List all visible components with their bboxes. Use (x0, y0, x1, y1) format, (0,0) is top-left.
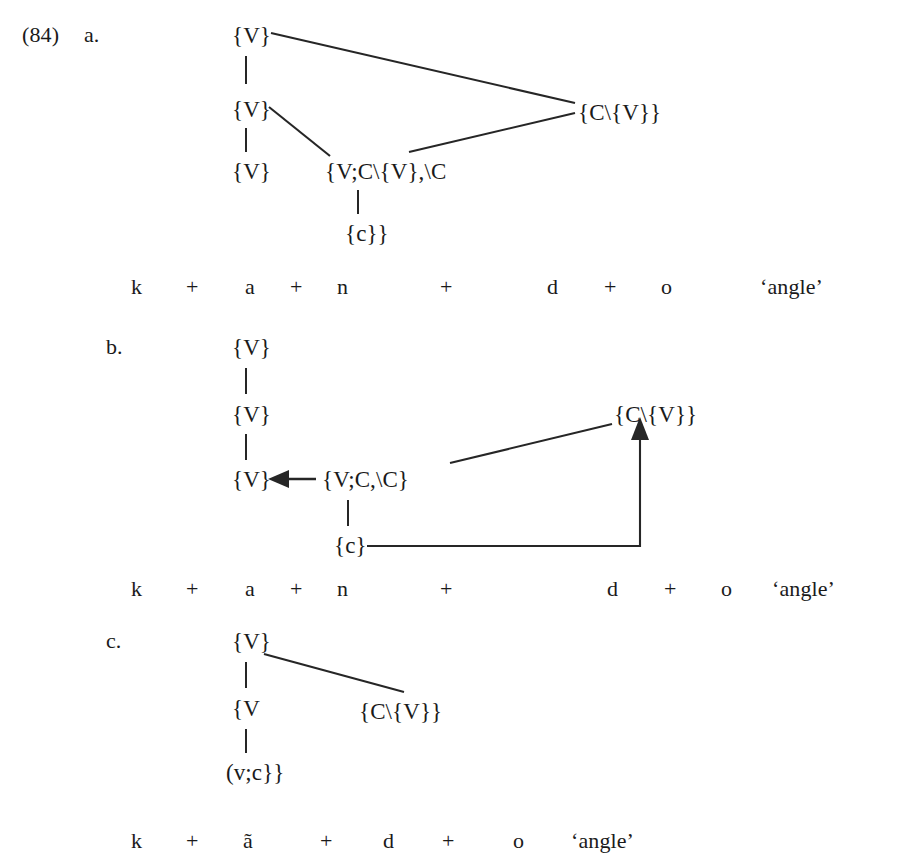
figure-84: (84) a. {V} {V} {V} {V;C\{V},\C {c}} {C\… (0, 0, 898, 868)
segment-a-4: n (337, 276, 348, 298)
segment-b-7: + (664, 578, 677, 600)
segment-b-6: d (607, 578, 618, 600)
subfigure-label-b: b. (106, 336, 123, 358)
segment-c-6: o (513, 830, 524, 852)
example-number: (84) (22, 24, 59, 46)
segment-a-5: + (440, 276, 453, 298)
node-a-cv: {C\{V}} (578, 101, 661, 124)
node-b-leaf-v: {V} (232, 468, 271, 491)
segment-c-2: ã (243, 830, 253, 852)
gloss-a: ‘angle’ (760, 276, 823, 298)
node-a-root-v: {V} (232, 24, 271, 47)
vbar-b-root-mid (245, 368, 247, 394)
segment-a-0: k (131, 276, 142, 298)
vbar-a-mid-leaf (245, 128, 247, 152)
segment-a-7: + (604, 276, 617, 298)
node-c-mid-v: {V (232, 697, 260, 720)
subfigure-label-c: c. (106, 630, 121, 652)
edge-a-mid-to-complex (269, 107, 330, 156)
segment-c-3: + (320, 830, 333, 852)
vbar-a-complex-c (357, 190, 359, 214)
segment-a-3: + (290, 276, 303, 298)
segment-c-0: k (131, 830, 142, 852)
segment-c-4: d (383, 830, 394, 852)
tree-edges-layer (0, 0, 898, 868)
subfigure-label-a: a. (84, 24, 99, 46)
node-a-complex: {V;C\{V},\C (325, 160, 446, 183)
node-b-cv: {C\{V}} (614, 403, 697, 426)
vbar-b-vcc-c (347, 500, 349, 526)
segment-c-1: + (186, 830, 199, 852)
segment-c-5: + (442, 830, 455, 852)
segment-b-4: n (337, 578, 348, 600)
vbar-b-mid-leaf (245, 434, 247, 460)
node-a-mid-v: {V} (232, 98, 271, 121)
segment-b-2: a (245, 578, 255, 600)
vbar-c-root-mid (245, 662, 247, 688)
segment-b-5: + (440, 578, 453, 600)
segment-a-1: + (186, 276, 199, 298)
edge-b-vcc-to-cv (450, 424, 612, 463)
edge-c-root-to-cv (264, 654, 404, 692)
node-a-leaf-v: {V} (232, 160, 271, 183)
segment-b-0: k (131, 578, 142, 600)
node-b-vcc: {V;C,\C} (322, 468, 409, 491)
node-c-root-v: {V} (232, 630, 271, 653)
segment-a-8: o (661, 276, 672, 298)
segment-b-8: o (721, 578, 732, 600)
arrowhead-left-icon (268, 470, 289, 488)
segment-b-3: + (290, 578, 303, 600)
segment-a-2: a (245, 276, 255, 298)
segment-a-6: d (547, 276, 558, 298)
gloss-c: ‘angle’ (571, 830, 634, 852)
edge-a-root-to-cv (271, 33, 575, 103)
segment-b-1: + (186, 578, 199, 600)
edge-a-complex-to-cv (409, 113, 575, 152)
node-b-mid-v: {V} (232, 403, 271, 426)
gloss-b: ‘angle’ (772, 578, 835, 600)
node-b-c-leaf: {c} (334, 534, 367, 557)
node-c-cv: {C\{V}} (359, 700, 442, 723)
node-c-vc-leaf: (v;c}} (226, 761, 284, 784)
node-b-root-v: {V} (232, 336, 271, 359)
node-a-c-leaf: {c}} (345, 222, 389, 245)
vbar-c-mid-leaf (245, 729, 247, 753)
vbar-a-root-mid (245, 56, 247, 84)
